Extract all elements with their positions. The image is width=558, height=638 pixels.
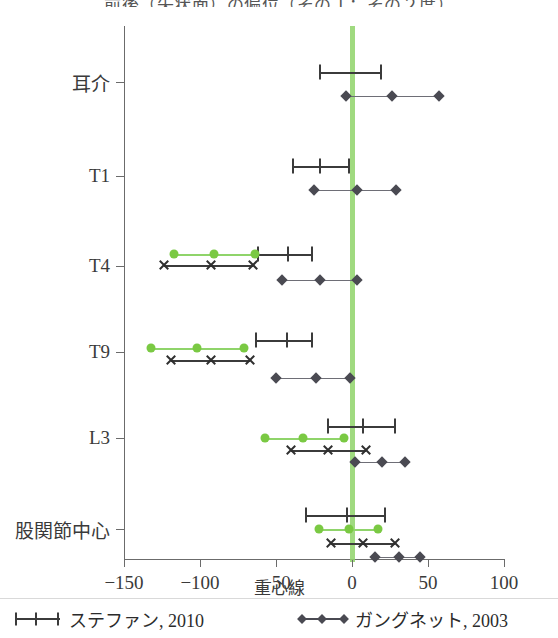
data-point-marker-diamond [400, 456, 411, 467]
y-tick-label-L3: L3 [0, 427, 110, 449]
data-point-marker-diamond [393, 551, 404, 562]
data-point-marker-x [285, 444, 297, 456]
x-tick [428, 560, 429, 567]
data-point-marker-x [244, 354, 256, 366]
data-point-marker-plus [319, 65, 321, 80]
data-point-marker-diamond [276, 274, 287, 285]
data-point-marker-diamond [415, 551, 426, 562]
data-point-marker-plus [327, 419, 329, 434]
series-range-line [256, 340, 312, 342]
series-range-line [320, 72, 381, 74]
data-point-marker-x [165, 354, 177, 366]
data-point-marker-x [205, 354, 217, 366]
chart-legend: ステファン, 2010ガングネット, 2003 [0, 604, 558, 638]
y-tick [116, 266, 124, 267]
data-point-marker-diamond [386, 90, 397, 101]
data-point-marker-plus [348, 159, 350, 174]
data-point-marker-plus [292, 159, 294, 174]
data-point-marker-plus [311, 333, 313, 348]
data-point-marker-plus [287, 247, 289, 262]
data-point-marker-plus [380, 65, 382, 80]
plus-marker-icon [14, 611, 62, 627]
diamond-marker-icon [300, 611, 348, 627]
data-point-marker-circle [209, 250, 218, 259]
data-point-marker-plus [255, 333, 257, 348]
y-tick [116, 352, 124, 353]
legend-divider [0, 598, 558, 599]
data-point-marker-diamond [270, 372, 281, 383]
data-point-marker-diamond [433, 90, 444, 101]
data-point-marker-diamond [390, 184, 401, 195]
y-tick-label-T4: T4 [0, 255, 110, 277]
data-point-marker-x [322, 444, 334, 456]
y-tick-label-耳介: 耳介 [0, 69, 110, 96]
legend-label: ステファン, 2010 [69, 606, 204, 632]
data-point-marker-circle [250, 250, 259, 259]
data-point-marker-plus [384, 508, 386, 523]
data-point-marker-plus [311, 247, 313, 262]
x-axis-label: 重心線 [0, 574, 558, 599]
legend-item[interactable]: ステファン, 2010 [14, 606, 204, 632]
data-point-marker-circle [261, 434, 270, 443]
x-tick [352, 560, 353, 567]
legend-label: ガングネット, 2003 [355, 606, 508, 632]
x-tick [276, 560, 277, 567]
chart-figure: 前後（矢状面）の偏位（その１：その２度） −150−100−50050100 耳… [0, 0, 558, 638]
data-point-marker-diamond [314, 274, 325, 285]
chart-title: 前後（矢状面）の偏位（その１：その２度） [0, 0, 558, 7]
data-point-marker-x [205, 259, 217, 271]
y-tick-label-T1: T1 [0, 165, 110, 187]
y-tick [116, 529, 124, 530]
data-point-marker-diamond [369, 551, 380, 562]
series-range-line [258, 254, 313, 256]
data-point-marker-circle [314, 525, 323, 534]
data-point-marker-circle [299, 434, 308, 443]
x-axis-line [124, 559, 505, 560]
x-tick [504, 560, 505, 567]
data-point-marker-plus [346, 508, 348, 523]
y-tick [116, 176, 124, 177]
data-point-marker-diamond [310, 372, 321, 383]
reference-line-center-of-gravity [350, 26, 355, 562]
data-point-marker-x [357, 537, 369, 549]
data-point-marker-circle [170, 250, 179, 259]
data-point-marker-circle [340, 434, 349, 443]
data-point-marker-diamond [308, 184, 319, 195]
data-point-marker-plus [286, 333, 288, 348]
data-point-marker-diamond [377, 456, 388, 467]
data-point-marker-x [158, 259, 170, 271]
y-tick-label-股関節中心: 股関節中心 [0, 516, 110, 543]
data-point-marker-x [360, 444, 372, 456]
data-point-marker-circle [147, 344, 156, 353]
data-point-marker-x [247, 259, 259, 271]
plot-area [124, 26, 504, 560]
data-point-marker-circle [344, 525, 353, 534]
y-tick [116, 438, 124, 439]
data-point-marker-plus [362, 419, 364, 434]
data-point-marker-circle [192, 344, 201, 353]
y-axis-line [124, 26, 125, 560]
y-tick [116, 82, 124, 83]
data-point-marker-plus [319, 159, 321, 174]
y-tick-label-T9: T9 [0, 341, 110, 363]
data-point-marker-circle [373, 525, 382, 534]
data-point-marker-x [325, 537, 337, 549]
data-point-marker-plus [394, 419, 396, 434]
x-tick [124, 560, 125, 567]
x-tick [200, 560, 201, 567]
data-point-marker-plus [305, 508, 307, 523]
legend-item[interactable]: ガングネット, 2003 [300, 606, 508, 632]
data-point-marker-x [389, 537, 401, 549]
data-point-marker-circle [240, 344, 249, 353]
